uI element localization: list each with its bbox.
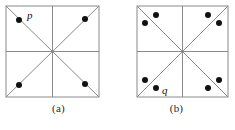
figure-container: p (a) q (b) xyxy=(0,0,235,130)
point-point-top-right-inner xyxy=(205,12,211,18)
point-point-bottom-right xyxy=(82,81,88,87)
panel-b-square-and-lines xyxy=(137,6,228,97)
point-q xyxy=(153,85,159,91)
figure-panel-a: p (a) xyxy=(0,0,117,130)
panel-a-drawing xyxy=(0,0,117,100)
point-point-bottom-left-outer xyxy=(142,77,148,83)
point-point-bottom-right-inner xyxy=(205,85,211,91)
point-point-bottom-left xyxy=(16,82,22,88)
point-label-q: q xyxy=(162,85,168,96)
point-point-top-left-inner xyxy=(153,12,159,18)
point-point-bottom-right-outer xyxy=(216,77,222,83)
point-p xyxy=(16,17,22,23)
point-point-top-right xyxy=(82,16,88,22)
caption-panel-a: (a) xyxy=(0,101,117,115)
panel-b-drawing xyxy=(118,0,235,100)
caption-panel-b: (b) xyxy=(118,101,235,115)
point-point-top-left-outer xyxy=(142,20,148,26)
point-point-top-right-outer xyxy=(216,20,222,26)
point-label-p: p xyxy=(27,10,33,21)
figure-panel-b: q (b) xyxy=(118,0,235,130)
